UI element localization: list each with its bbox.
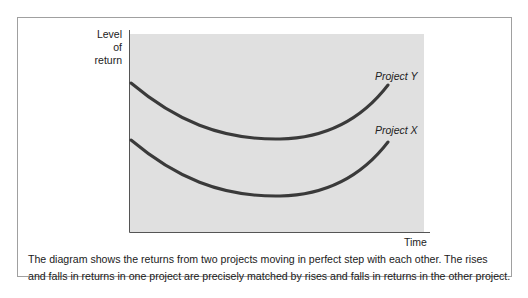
y-axis-label-line-3: return [86,54,122,67]
caption-line-1: The diagram shows the returns from two p… [28,251,508,268]
y-axis-label-line-1: Level [86,28,122,41]
y-axis-label: Level of return [86,28,122,67]
y-axis-label-line-2: of [86,41,122,54]
figure-caption: The diagram shows the returns from two p… [28,251,508,285]
series-label-project-y: Project Y [375,70,417,82]
caption-line-2: and falls in returns in one project are … [28,268,508,285]
x-axis-label: Time [404,236,427,248]
series-label-project-x: Project X [375,124,418,136]
